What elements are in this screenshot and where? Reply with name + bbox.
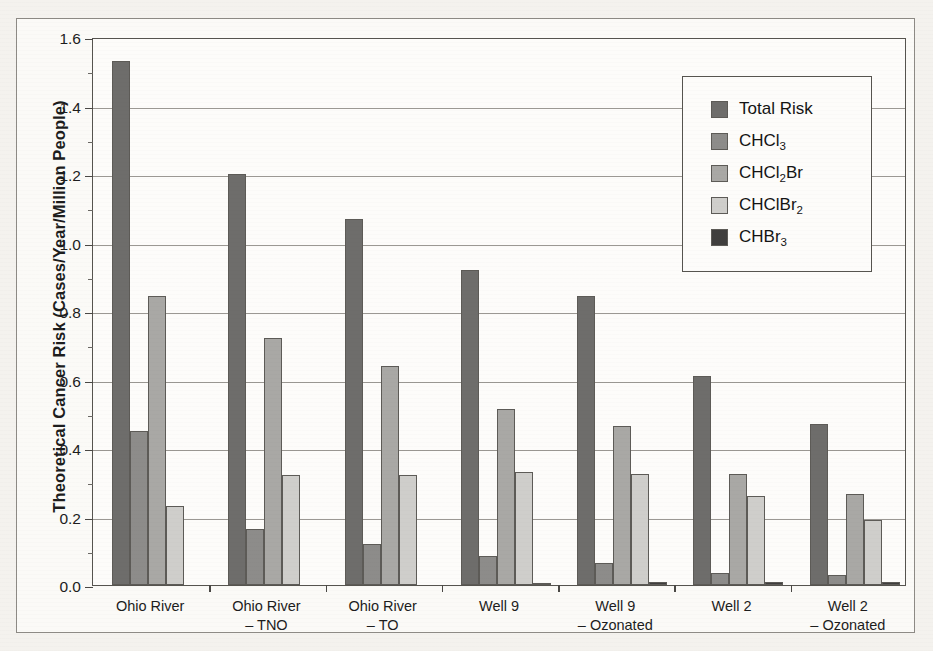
bar — [497, 409, 515, 585]
bar — [882, 582, 900, 585]
bar — [595, 563, 613, 585]
y-axis-tick-label: 1.2 — [59, 167, 81, 185]
y-axis-tick-label: 1.4 — [59, 99, 81, 117]
bar — [631, 474, 649, 585]
bar — [363, 544, 381, 585]
x-axis-tick — [209, 585, 210, 592]
legend-item: CHBr3 — [711, 221, 871, 253]
x-axis-label-line1: Well 2 — [828, 598, 868, 614]
legend-item: CHCl3 — [711, 125, 871, 157]
y-axis-tick — [85, 245, 93, 246]
bar — [112, 61, 130, 585]
y-axis-tick — [85, 108, 93, 109]
bar — [264, 338, 282, 585]
x-axis-label-line1: Ohio River — [116, 598, 185, 614]
legend-item: CHCl2Br — [711, 157, 871, 189]
y-axis-tick — [85, 382, 93, 383]
chart-legend: Total RiskCHCl3CHCl2BrCHClBr2CHBr3 — [682, 76, 872, 272]
x-axis-label: Ohio River — [116, 597, 185, 616]
x-axis-label-line1: Well 2 — [712, 598, 752, 614]
x-axis-label: Well 2 — [712, 597, 752, 616]
y-axis-tick-label: 0.8 — [59, 304, 81, 322]
y-axis-tick-label: 1.0 — [59, 236, 81, 254]
legend-item-label: CHBr3 — [739, 227, 787, 247]
y-axis-tick-label: 0.6 — [59, 373, 81, 391]
legend-swatch-icon — [711, 133, 728, 150]
x-axis-label: Well 9– Ozonated — [578, 597, 653, 635]
x-axis-tick — [558, 585, 559, 592]
x-axis-tick — [326, 585, 327, 592]
x-axis-label-line2: – Ozonated — [578, 616, 653, 635]
bar — [828, 575, 846, 585]
x-axis-label: Well 9 — [479, 597, 519, 616]
bar — [864, 520, 882, 585]
y-axis-tick-label: 0.0 — [59, 578, 81, 596]
y-axis-tick-label: 0.4 — [59, 441, 81, 459]
x-axis-label-line2: – TNO — [232, 616, 301, 635]
bar — [577, 296, 595, 585]
y-axis-tick — [85, 587, 93, 588]
x-axis-label-line1: Ohio River — [232, 598, 301, 614]
bar — [693, 376, 711, 585]
x-axis-tick — [674, 585, 675, 592]
bar-group — [442, 39, 558, 585]
bar — [479, 556, 497, 585]
bar — [765, 582, 783, 585]
legend-item: CHClBr2 — [711, 189, 871, 221]
legend-swatch-icon — [711, 229, 728, 246]
legend-swatch-icon — [711, 197, 728, 214]
bar-group — [326, 39, 442, 585]
bar — [461, 270, 479, 585]
bar — [166, 506, 184, 585]
bar — [515, 472, 533, 585]
y-axis-tick — [85, 176, 93, 177]
bar — [228, 174, 246, 585]
bar — [747, 496, 765, 585]
x-axis-tick — [442, 585, 443, 592]
y-axis-tick — [85, 450, 93, 451]
bar — [246, 529, 264, 586]
bar — [613, 426, 631, 585]
x-axis-label-line1: Ohio River — [348, 598, 417, 614]
x-axis-tick — [791, 585, 792, 592]
x-axis-label-line2: – Ozonated — [810, 616, 885, 635]
x-axis-label: Well 2– Ozonated — [810, 597, 885, 635]
bar — [810, 424, 828, 585]
legend-swatch-icon — [711, 165, 728, 182]
bar-group — [93, 39, 209, 585]
figure-frame: Theoretical Cancer Risk (Cases/Year/Mill… — [16, 18, 915, 633]
bar — [649, 582, 667, 585]
y-axis-tick-label: 1.6 — [59, 30, 81, 48]
bar — [846, 494, 864, 585]
bar — [399, 475, 417, 585]
bar — [381, 366, 399, 585]
bar — [729, 474, 747, 585]
y-axis-tick — [85, 313, 93, 314]
bar — [345, 219, 363, 585]
bar — [130, 431, 148, 585]
x-axis-label-line1: Well 9 — [479, 598, 519, 614]
legend-swatch-icon — [711, 101, 728, 118]
bar-group — [209, 39, 325, 585]
bar — [282, 475, 300, 585]
bar — [533, 583, 551, 585]
y-axis-tick — [85, 519, 93, 520]
bar-group — [558, 39, 674, 585]
x-axis-label-line2: – TO — [348, 616, 417, 635]
legend-item: Total Risk — [711, 93, 871, 125]
bar — [148, 296, 166, 585]
y-axis-tick-label: 0.2 — [59, 510, 81, 528]
x-axis-label: Ohio River– TO — [348, 597, 417, 635]
legend-item-label: CHCl3 — [739, 131, 786, 151]
x-axis-label-line1: Well 9 — [595, 598, 635, 614]
y-axis-tick — [85, 39, 93, 40]
x-axis-label: Ohio River– TNO — [232, 597, 301, 635]
legend-item-label: CHClBr2 — [739, 195, 803, 215]
bar — [711, 573, 729, 585]
legend-item-label: CHCl2Br — [739, 163, 803, 183]
legend-item-label: Total Risk — [739, 99, 813, 119]
